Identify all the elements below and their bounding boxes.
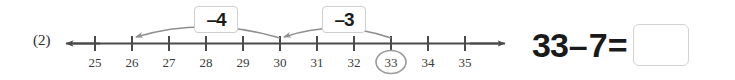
tick-label-29: 29 — [237, 55, 250, 70]
tick-label-30: 30 — [274, 55, 287, 70]
tick-label-31: 31 — [311, 55, 324, 70]
number-line-worksheet-problem: (2) — [0, 0, 735, 80]
tick-label-25: 25 — [89, 55, 102, 70]
tick-label-34: 34 — [422, 55, 436, 70]
tick-label-group: 25 26 27 28 29 30 31 32 33 34 35 — [89, 55, 472, 70]
tick-label-26: 26 — [126, 55, 140, 70]
equation: 33 – 7 = — [532, 24, 689, 66]
equation-equals-sign: = — [607, 28, 629, 62]
tick-label-33: 33 — [385, 55, 398, 70]
jump-label-minus-4: –4 — [194, 6, 238, 33]
tick-label-27: 27 — [163, 55, 177, 70]
tick-label-32: 32 — [348, 55, 361, 70]
equation-left-operand: 33 — [532, 28, 568, 62]
equation-right-operand: 7 — [589, 28, 607, 62]
answer-input-box[interactable] — [633, 24, 689, 66]
equation-minus-operator: – — [568, 28, 589, 62]
tick-label-35: 35 — [459, 55, 472, 70]
tick-label-28: 28 — [200, 55, 213, 70]
jump-label-minus-3: –3 — [322, 6, 366, 33]
